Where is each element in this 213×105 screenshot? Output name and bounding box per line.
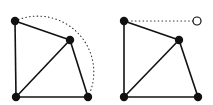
graph-edge (70, 40, 88, 97)
graph-node (11, 17, 19, 25)
graph-edge (124, 21, 179, 40)
graph-node (66, 36, 74, 44)
graph-edge (15, 21, 16, 97)
left-panel-graph (11, 16, 94, 101)
graph-node (84, 93, 92, 101)
hollow-target-node (193, 17, 201, 25)
graph-node (120, 17, 128, 25)
graph-diagram (0, 0, 213, 105)
graph-node (194, 93, 202, 101)
graph-edge (179, 40, 198, 97)
graph-node (120, 93, 128, 101)
graph-edge (15, 21, 70, 40)
right-panel-graph (120, 17, 202, 101)
graph-node (12, 93, 20, 101)
graph-edge (124, 40, 179, 97)
graph-edge (16, 40, 70, 97)
graph-node (175, 36, 183, 44)
